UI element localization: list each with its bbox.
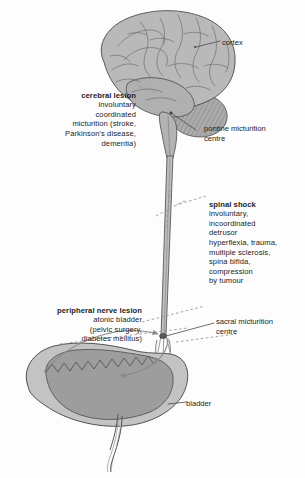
cerebral-lesion-heading: cerebral lesion: [10, 91, 136, 101]
micturition-neuroanatomy-figure: cerebral lesioninvoluntary coordinated m…: [0, 0, 305, 478]
peripheral-lesion-marker-a: [142, 306, 205, 322]
spinal-cord-group: [156, 156, 173, 368]
label-sacral-micturition-centre: sacral micturition centre: [216, 317, 300, 336]
spinal-shock-marker-lead: [176, 196, 206, 205]
leader-sacral: [166, 323, 214, 336]
bladder-group: [26, 343, 187, 472]
annotation-spinal-shock: spinal shockinvoluntary, incoordinated d…: [209, 190, 303, 286]
label-cortex: cortex: [222, 38, 292, 48]
label-bladder: bladder: [186, 399, 246, 409]
spinal-shock-body: involuntary, incoordinated detrusor hype…: [209, 209, 277, 285]
conus-medullaris: [160, 333, 167, 338]
pontine-point: [170, 112, 173, 115]
annotation-peripheral-nerve-lesion: peripheral nerve lesionatonic bladder (p…: [8, 296, 142, 344]
cerebral-lesion-body: involuntary coordinated micturition (str…: [65, 100, 136, 147]
cortex-point: [194, 46, 196, 48]
peripheral-nerve-lesion-body: atonic bladder (pelvic surgery, diabetes…: [82, 315, 142, 343]
peripheral-nerve-lesion-heading: peripheral nerve lesion: [8, 306, 142, 316]
label-pontine-micturition-centre: pontine micturition centre: [204, 124, 300, 143]
annotation-cerebral-lesion: cerebral lesioninvoluntary coordinated m…: [10, 81, 136, 148]
spinal-shock-heading: spinal shock: [209, 200, 303, 210]
